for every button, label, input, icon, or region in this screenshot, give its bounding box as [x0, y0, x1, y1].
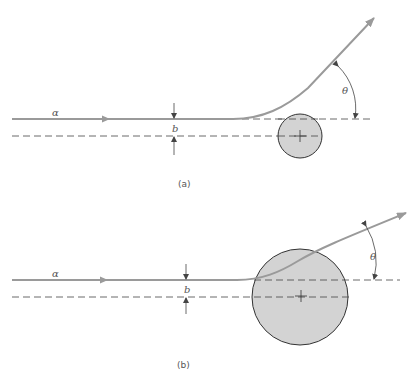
- scattering-angle-label: θ: [370, 251, 376, 262]
- panel-a: α b θ (a): [12, 18, 374, 189]
- trajectory-direction-arrow-icon: [102, 116, 110, 123]
- scattering-diagram: α b θ (a) α b θ (b): [0, 0, 412, 376]
- panel-b-caption: (b): [177, 360, 190, 370]
- alpha-trajectory: [12, 213, 406, 280]
- alpha-label: α: [52, 268, 59, 279]
- panel-b: α b θ (b): [12, 213, 406, 370]
- alpha-label: α: [52, 107, 59, 118]
- impact-parameter-label: b: [172, 123, 178, 134]
- scattering-angle-label: θ: [342, 85, 348, 96]
- panel-a-caption: (a): [178, 179, 191, 189]
- alpha-trajectory: [12, 18, 374, 119]
- trajectory-direction-arrow-icon: [100, 277, 108, 284]
- impact-parameter-label: b: [184, 284, 190, 295]
